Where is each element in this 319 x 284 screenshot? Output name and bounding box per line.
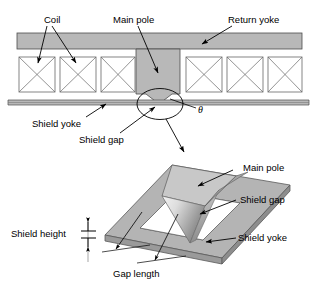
return-yoke-bar [17,33,302,49]
coil-group-left [19,57,135,92]
label-coil: Coil [44,14,60,25]
main-pole-stem [136,49,180,104]
head-structure-figure: Coil Main pole Return yoke Shield yoke S… [0,0,319,284]
perspective-view [81,165,290,264]
label-shield-yoke-3d: Shield yoke [238,232,287,243]
shield-height-dimension [81,218,96,262]
detail-link-arrow [166,119,184,152]
label-return-yoke: Return yoke [228,14,279,25]
label-gap-length: Gap length [113,268,159,279]
label-shield-yoke: Shield yoke [32,118,81,129]
label-main-pole: Main pole [113,14,154,25]
label-main-pole-3d: Main pole [243,162,284,173]
label-shield-gap-3d: Shield gap [240,194,285,205]
coil-group-right [186,57,302,92]
shield-gap-arrow [120,107,155,133]
coil-box [227,57,263,92]
coil-box [101,57,135,92]
coil-box [268,57,302,92]
cross-section-view [8,26,309,152]
coil-box [60,57,96,92]
coil-box [19,57,55,92]
label-shield-gap: Shield gap [79,134,124,145]
label-shield-height: Shield height [11,228,66,239]
label-theta-angle: θ [198,104,203,115]
coil-box [186,57,222,92]
shield-yoke-arrow [86,104,106,117]
